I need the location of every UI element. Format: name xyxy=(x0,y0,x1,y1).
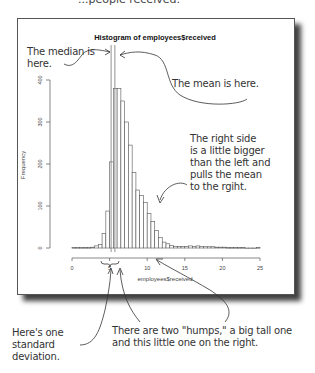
histogram-bar xyxy=(98,245,102,248)
x-tick-label: 5 xyxy=(108,265,111,271)
chart-title: Histogram of employees$received xyxy=(94,33,216,42)
histogram-bar xyxy=(207,247,211,248)
histogram-bar xyxy=(155,230,159,248)
histogram-bar xyxy=(72,248,76,249)
histogram-bar xyxy=(215,247,219,248)
x-tick-label: 20 xyxy=(219,265,225,271)
x-tick-label: 25 xyxy=(257,265,263,271)
histogram-bar xyxy=(136,190,140,248)
histogram-bar xyxy=(252,248,256,249)
histogram-bar xyxy=(204,247,208,248)
histogram-bar xyxy=(226,248,230,249)
std-dev-annotation: Here's one standard deviation. xyxy=(12,327,63,363)
histogram-bar xyxy=(140,196,144,249)
histogram-bar xyxy=(151,222,155,248)
histogram-bar xyxy=(177,246,181,248)
mean-annotation: The mean is here. xyxy=(172,78,259,90)
histogram-bar xyxy=(158,238,162,249)
histogram-bar xyxy=(230,248,234,249)
x-tick-label: 0 xyxy=(70,265,73,271)
histogram-bar xyxy=(121,101,125,248)
y-tick-label: 100 xyxy=(37,201,43,210)
histogram-bar xyxy=(256,248,260,249)
histogram-bar xyxy=(196,246,200,248)
histogram-bar xyxy=(166,244,170,248)
x-axis: 0510152025 xyxy=(70,258,263,271)
histogram-bar xyxy=(211,247,215,248)
histogram-bar xyxy=(147,214,151,248)
histogram-bar xyxy=(170,245,174,248)
histogram-bar xyxy=(132,172,136,248)
histogram-bar xyxy=(245,248,249,249)
right-side-annotation: The right side is a little bigger than t… xyxy=(190,133,270,193)
histogram-bar xyxy=(117,88,121,248)
histogram-bar xyxy=(181,246,185,248)
histogram-bar xyxy=(189,246,193,248)
histogram-bar xyxy=(91,247,95,248)
histogram-bar xyxy=(237,248,241,249)
y-tick-label: 300 xyxy=(37,117,43,126)
histogram-bar xyxy=(80,248,84,249)
histogram-bar xyxy=(185,246,189,248)
histogram-bar xyxy=(106,211,110,248)
y-tick-label: 0 xyxy=(37,246,43,249)
median-annotation: The median is here. xyxy=(27,46,97,70)
histogram-bar xyxy=(234,248,238,249)
histogram-bar xyxy=(174,246,178,248)
histogram-bar xyxy=(125,122,129,248)
histogram-bar xyxy=(222,247,226,248)
histogram-bar xyxy=(76,248,80,249)
x-tick-label: 15 xyxy=(182,265,188,271)
histogram-bar xyxy=(249,248,253,249)
x-axis-label: employees$received xyxy=(137,276,192,282)
histogram-bar xyxy=(241,248,245,249)
histogram-bar xyxy=(162,242,166,248)
x-tick-label: 10 xyxy=(144,265,150,271)
histogram-bar xyxy=(102,233,106,248)
y-tick-label: 400 xyxy=(37,75,43,84)
histogram-bar xyxy=(143,203,147,248)
humps-annotation: There are two "humps," a big tall one an… xyxy=(112,325,292,349)
y-axis-label: Frequency xyxy=(20,151,26,179)
histogram-bar xyxy=(219,247,223,248)
histogram-bar xyxy=(83,248,87,249)
y-axis: 0100200300400 xyxy=(37,75,50,249)
y-tick-label: 200 xyxy=(37,159,43,168)
histogram-bar xyxy=(200,246,204,248)
histogram-bar xyxy=(87,248,91,249)
histogram-bar xyxy=(192,246,196,248)
histogram-bar xyxy=(128,145,132,248)
histogram-bar xyxy=(95,246,99,248)
